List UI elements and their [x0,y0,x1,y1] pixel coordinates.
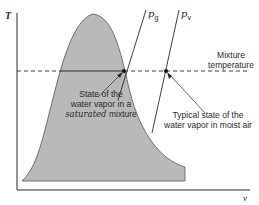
typical-label-line2: water vapor in moist air [156,120,259,130]
x-axis-label: v [243,193,247,203]
saturated-word: saturated [65,109,106,119]
saturated-label-line1: State of the [60,89,142,99]
saturated-label-line2: water vapor in a [60,99,142,109]
typical-arrowhead-icon [167,72,172,79]
typical-label-line1: Typical state of the [156,110,259,120]
mixture-temperature-line1: Mixture [205,50,257,60]
pv-label: pv [181,9,191,23]
typical-state-label: Typical state of the water vapor in mois… [156,110,259,130]
saturated-label-line3: saturated mixture [60,109,142,119]
saturated-state-label: State of the water vapor in a saturated … [60,89,142,119]
pg-label-sub: g [154,14,158,21]
mixture-temperature-label: Mixture temperature [205,50,257,70]
mixture-word: mixture [107,109,137,119]
pv-label-sub: v [187,14,191,21]
pg-isobar [118,10,146,100]
typical-leader-line [169,74,205,113]
pg-label: pg [148,9,158,23]
y-axis-label: T [5,11,11,21]
mixture-temperature-line2: temperature [205,60,257,70]
